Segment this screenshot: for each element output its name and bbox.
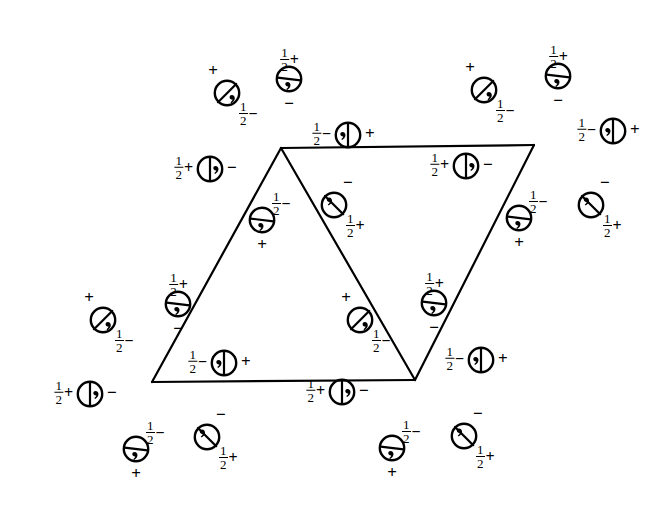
height-label-half-minus: 12−	[528, 187, 548, 216]
height-label-minus: −	[227, 159, 237, 176]
fraction-denominator: 2	[603, 225, 612, 239]
height-label-half-plus: 12+	[218, 443, 238, 472]
fraction-denominator: 2	[402, 431, 411, 445]
half-suffix-plus: +	[486, 449, 495, 465]
one-half-fraction: 12	[476, 443, 485, 471]
one-half-fraction: 12	[280, 46, 289, 74]
circle-split-vertical-comma-right-icon	[327, 377, 357, 407]
height-label-half-plus: 12+	[53, 378, 73, 407]
one-half-fraction: 12	[169, 271, 178, 299]
half-sign-group: 12+	[548, 43, 568, 71]
fraction-numerator: 1	[146, 419, 155, 432]
one-half-fraction: 12	[346, 212, 355, 240]
fraction-denominator: 2	[577, 129, 586, 143]
one-half-fraction: 12	[430, 151, 439, 179]
circle-split-vertical-comma-right-icon	[75, 379, 105, 409]
one-half-fraction: 12	[239, 100, 248, 128]
height-label-half-plus: 12+	[602, 211, 622, 240]
fraction-numerator: 1	[496, 97, 505, 110]
height-label-plus: +	[365, 125, 375, 142]
height-label-half-minus: 12−	[495, 96, 515, 125]
one-half-fraction: 12	[312, 120, 321, 148]
half-suffix-plus: +	[229, 450, 238, 466]
fraction-denominator: 2	[146, 432, 155, 446]
fraction-numerator: 1	[603, 212, 612, 225]
one-half-fraction: 12	[306, 377, 315, 405]
height-label-minus: −	[359, 382, 369, 399]
height-label-plus: +	[465, 59, 475, 76]
half-suffix-minus: −	[125, 333, 134, 349]
half-suffix-plus: +	[356, 218, 365, 234]
height-label-half-minus: 12−	[187, 347, 207, 376]
fraction-numerator: 1	[529, 188, 538, 201]
one-half-fraction: 12	[372, 327, 381, 355]
half-sign-group: 12−	[444, 345, 464, 373]
fraction-numerator: 1	[174, 154, 183, 167]
half-sign-group: 12−	[401, 418, 421, 446]
fraction-numerator: 1	[280, 46, 289, 59]
half-suffix-plus: +	[559, 49, 568, 65]
height-label-plus: +	[131, 465, 141, 482]
half-suffix-minus: −	[587, 122, 596, 138]
one-half-fraction: 12	[496, 97, 505, 125]
height-label-half-plus: 12+	[429, 150, 449, 179]
fraction-denominator: 2	[529, 201, 538, 215]
circle-split-vertical-comma-left-icon	[598, 116, 628, 146]
half-sign-group: 12−	[576, 116, 596, 144]
fraction-numerator: 1	[372, 327, 381, 340]
half-sign-group: 12−	[271, 190, 291, 218]
half-sign-group: 12+	[345, 212, 365, 240]
fraction-denominator: 2	[476, 456, 485, 470]
fraction-denominator: 2	[188, 361, 197, 375]
height-label-plus: +	[84, 289, 94, 306]
one-half-fraction: 12	[549, 43, 558, 71]
one-half-fraction: 12	[54, 379, 63, 407]
figure-canvas: 12+−+12−12+−+12−12−+12−+12+−12+−12−+−12+…	[0, 0, 672, 505]
circle-split-vertical-comma-left-icon	[466, 345, 496, 375]
one-half-fraction: 12	[188, 348, 197, 376]
fraction-denominator: 2	[346, 225, 355, 239]
half-suffix-minus: −	[249, 106, 258, 122]
height-label-minus: −	[284, 95, 294, 112]
half-suffix-minus: −	[322, 126, 331, 142]
fraction-numerator: 1	[188, 348, 197, 361]
fraction-numerator: 1	[169, 271, 178, 284]
height-label-plus: +	[341, 289, 351, 306]
circle-split-vertical-comma-right-icon	[195, 154, 225, 184]
half-sign-group: 12+	[53, 379, 73, 407]
fraction-numerator: 1	[402, 418, 411, 431]
half-sign-group: 12−	[114, 327, 134, 355]
height-label-half-plus: 12+	[424, 269, 444, 298]
one-half-fraction: 12	[529, 188, 538, 216]
height-label-half-minus: 12−	[114, 326, 134, 355]
half-suffix-plus: +	[290, 52, 299, 68]
fraction-denominator: 2	[54, 392, 63, 406]
cell-edge-bottom-edge	[152, 380, 415, 382]
half-suffix-minus: −	[382, 333, 391, 349]
fraction-denominator: 2	[306, 390, 315, 404]
fraction-denominator: 2	[430, 164, 439, 178]
fraction-numerator: 1	[549, 43, 558, 56]
height-label-half-plus: 12+	[168, 270, 188, 299]
fraction-numerator: 1	[346, 212, 355, 225]
fraction-numerator: 1	[239, 100, 248, 113]
height-label-minus: −	[173, 320, 183, 337]
one-half-fraction: 12	[425, 270, 434, 298]
half-sign-group: 12+	[602, 212, 622, 240]
half-suffix-minus: −	[282, 196, 291, 212]
half-sign-group: 12+	[429, 151, 449, 179]
fraction-numerator: 1	[445, 345, 454, 358]
half-suffix-plus: +	[64, 385, 73, 401]
height-label-minus: −	[429, 319, 439, 336]
height-label-minus: −	[483, 156, 493, 173]
height-label-half-plus: 12+	[279, 45, 299, 74]
one-half-fraction: 12	[402, 418, 411, 446]
fraction-numerator: 1	[306, 377, 315, 390]
height-label-plus: +	[241, 353, 251, 370]
height-label-half-minus: 12−	[444, 344, 464, 373]
half-suffix-plus: +	[179, 277, 188, 293]
height-label-minus: −	[600, 174, 610, 191]
height-label-plus: +	[257, 236, 267, 253]
half-sign-group: 12+	[279, 46, 299, 74]
half-sign-group: 12−	[187, 348, 207, 376]
